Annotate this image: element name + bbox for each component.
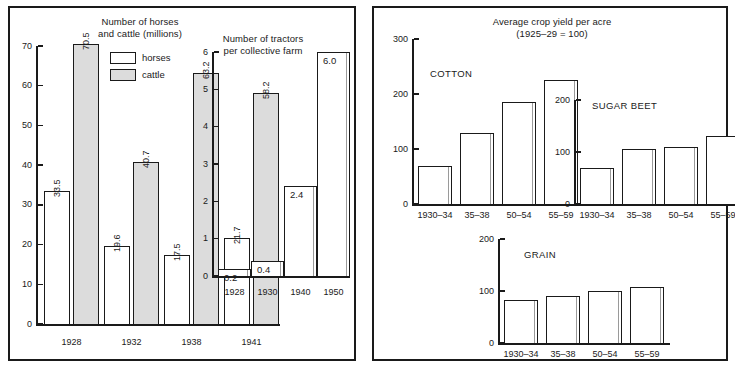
sugar-beet-x-tick-label: 55–59 bbox=[702, 211, 735, 220]
grain-bar bbox=[630, 287, 664, 343]
sugar-beet-bar bbox=[622, 149, 656, 204]
crop-yield-title-line2: (1925–29 = 100) bbox=[452, 28, 652, 40]
tractors-bar-value-label: 6.0 bbox=[323, 56, 336, 66]
grain-bar bbox=[546, 296, 580, 343]
grain-x-axis bbox=[498, 343, 670, 345]
livestock-y-tick-label: 30 bbox=[14, 200, 32, 209]
grain-bar bbox=[504, 300, 538, 343]
livestock-y-tick bbox=[38, 125, 43, 126]
sugar-beet-y-tick bbox=[576, 99, 581, 100]
livestock-y-tick-label: 0 bbox=[14, 320, 32, 329]
livestock-x-axis bbox=[36, 324, 280, 326]
livestock-bar-value-label: 19.6 bbox=[113, 235, 122, 253]
cotton-y-tick-label: 300 bbox=[388, 35, 408, 44]
livestock-y-tick bbox=[38, 85, 43, 86]
grain-x-tick-label: 55–59 bbox=[626, 350, 668, 359]
legend-swatch-horses-icon bbox=[110, 52, 136, 64]
sugar-beet-y-tick bbox=[576, 151, 581, 152]
tractors-bar-value-label: 2.4 bbox=[290, 190, 303, 200]
cotton-y-tick bbox=[414, 38, 419, 39]
tractors-title-line2: per collective farm bbox=[188, 45, 338, 57]
livestock-legend: horses cattle bbox=[110, 50, 171, 84]
livestock-y-tick-label: 50 bbox=[14, 121, 32, 130]
livestock-y-tick bbox=[38, 244, 43, 245]
livestock-y-tick bbox=[38, 164, 43, 165]
grain-y-tick bbox=[500, 238, 505, 239]
tractors-y-tick bbox=[214, 89, 219, 90]
grain-y-tick bbox=[500, 290, 505, 291]
sugar-beet-y-tick-label: 200 bbox=[550, 96, 570, 105]
tractors-y-tick-label: 4 bbox=[198, 122, 208, 131]
tractors-y-tick bbox=[214, 238, 219, 239]
crop-yield-panel: Average crop yield per acre (1925–29 = 1… bbox=[372, 6, 728, 361]
livestock-x-tick-label: 1928 bbox=[50, 338, 94, 347]
tractors-y-tick-label: 2 bbox=[198, 197, 208, 206]
cotton-bar bbox=[502, 102, 536, 204]
sugar-beet-x-tick-label: 1930–34 bbox=[576, 211, 618, 220]
sugar-beet-x-tick-label: 50–54 bbox=[660, 211, 702, 220]
sugar-beet-y-tick-label: 100 bbox=[550, 148, 570, 157]
sugar-beet-y-tick-label: 0 bbox=[550, 200, 570, 209]
tractors-y-tick bbox=[214, 51, 219, 52]
tractors-bar-value-label: 0.4 bbox=[257, 265, 270, 275]
tractors-y-tick-label: 1 bbox=[198, 234, 208, 243]
legend-row-cattle: cattle bbox=[110, 67, 171, 82]
livestock-bar-value-label: 70.5 bbox=[82, 32, 91, 50]
livestock-bar-value-label: 21.7 bbox=[233, 226, 242, 244]
grain-x-tick-label: 35–38 bbox=[542, 350, 584, 359]
cotton-bar bbox=[460, 133, 494, 205]
grain-x-tick-label: 1930–34 bbox=[500, 350, 542, 359]
livestock-y-tick-label: 40 bbox=[14, 161, 32, 170]
grain-y-tick-label: 100 bbox=[474, 287, 494, 296]
grain-x-tick-label: 50–54 bbox=[584, 350, 626, 359]
crop-yield-title: Average crop yield per acre (1925–29 = 1… bbox=[452, 16, 652, 39]
livestock-bar-value-label: 33.5 bbox=[53, 179, 62, 197]
crop-yield-title-line1: Average crop yield per acre bbox=[452, 16, 652, 28]
tractors-title-line1: Number of tractors bbox=[188, 33, 338, 45]
legend-row-horses: horses bbox=[110, 50, 171, 65]
livestock-bar-value-label: 58.2 bbox=[262, 81, 271, 99]
tractors-y-axis bbox=[212, 52, 214, 278]
livestock-y-tick bbox=[38, 204, 43, 205]
tractors-y-tick-label: 0 bbox=[198, 272, 208, 281]
livestock-y-tick bbox=[38, 284, 43, 285]
livestock-y-tick-label: 60 bbox=[14, 81, 32, 90]
livestock-x-tick-label: 1932 bbox=[110, 338, 154, 347]
cotton-x-tick-label: 50–54 bbox=[498, 211, 540, 220]
cotton-y-tick bbox=[414, 148, 419, 149]
cotton-x-tick-label: 1930–34 bbox=[414, 211, 456, 220]
livestock-bar-value-label: 40.7 bbox=[142, 151, 151, 169]
cotton-y-tick-label: 100 bbox=[388, 145, 408, 154]
sugar-beet-bar bbox=[706, 136, 735, 204]
cotton-y-tick-label: 200 bbox=[388, 90, 408, 99]
livestock-bar-horses bbox=[104, 246, 130, 324]
cotton-bar bbox=[418, 166, 452, 205]
sugar-beet-bar bbox=[580, 168, 614, 204]
livestock-y-tick-label: 20 bbox=[14, 240, 32, 249]
livestock-bar-cattle bbox=[73, 44, 99, 324]
livestock-y-tick-label: 10 bbox=[14, 280, 32, 289]
tractors-chart-title: Number of tractors per collective farm bbox=[188, 33, 338, 56]
tractors-y-tick-label: 5 bbox=[198, 85, 208, 94]
tractors-bar bbox=[317, 52, 350, 276]
sugar-beet-bar bbox=[664, 147, 698, 204]
livestock-bar-horses bbox=[164, 255, 190, 325]
livestock-title-line1: Number of horses bbox=[50, 16, 230, 28]
cotton-x-tick-label: 35–38 bbox=[456, 211, 498, 220]
legend-label-horses: horses bbox=[142, 52, 171, 63]
sugar-beet-x-tick-label: 35–38 bbox=[618, 211, 660, 220]
tractors-y-tick bbox=[214, 201, 219, 202]
cotton-y-axis bbox=[412, 39, 414, 206]
cotton-y-tick bbox=[414, 93, 419, 94]
livestock-x-tick-label: 1941 bbox=[230, 338, 274, 347]
tractors-x-tick-label: 1950 bbox=[314, 288, 354, 297]
livestock-and-tractors-panel: Number of horses and cattle (millions) h… bbox=[8, 6, 356, 361]
legend-label-cattle: cattle bbox=[142, 69, 165, 80]
sugar-beet-caption: SUGAR BEET bbox=[592, 100, 657, 111]
cotton-caption: COTTON bbox=[430, 68, 472, 79]
grain-y-axis bbox=[498, 239, 500, 345]
livestock-bar-value-label: 17.5 bbox=[173, 243, 182, 261]
grain-caption: GRAIN bbox=[524, 249, 556, 260]
livestock-x-tick-label: 1938 bbox=[170, 338, 214, 347]
sugar-beet-y-axis bbox=[574, 100, 576, 206]
